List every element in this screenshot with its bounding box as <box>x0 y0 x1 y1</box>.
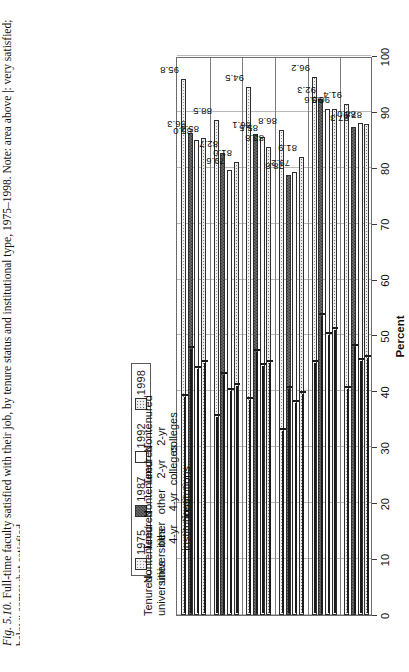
figure-number: Fig. 5.10. <box>1 601 13 646</box>
bar <box>332 109 337 615</box>
axis-title: Percent <box>394 57 406 616</box>
category-axis: Tenured universitiesNontenured universit… <box>132 57 172 616</box>
bar-value-label: 88.5 <box>193 106 212 117</box>
bar-value-label: 87.9 <box>343 110 362 121</box>
category-label: Tenured universities <box>142 583 167 616</box>
very-satisfied-rule <box>314 363 316 613</box>
axis-tick <box>372 391 377 392</box>
axis-tick-label: 20 <box>379 498 391 510</box>
bar-group: 88.582.779.681.0 <box>210 58 243 615</box>
axis-tick <box>372 447 377 448</box>
bar-value-label: 94.5 <box>225 73 244 84</box>
bar-group: 94.586.185.583.8 <box>242 58 275 615</box>
bar <box>299 157 304 615</box>
bar <box>246 87 251 615</box>
very-satisfied-rule <box>236 386 238 613</box>
bar <box>364 124 369 615</box>
bar <box>358 123 363 615</box>
axis-tick-label: 0 <box>379 613 391 619</box>
category-label: Nontenured universities <box>142 551 167 584</box>
bar <box>201 138 206 615</box>
axis-tick-label: 30 <box>379 442 391 454</box>
very-satisfied-rule <box>354 347 356 613</box>
axis-tick <box>372 559 377 560</box>
bar <box>325 109 330 615</box>
very-satisfied-tick <box>234 383 240 385</box>
very-satisfied-rule <box>282 431 284 613</box>
very-satisfied-rule <box>347 389 349 613</box>
bar <box>266 147 271 615</box>
axis-tick-label: 90 <box>379 107 391 119</box>
very-satisfied-tick <box>267 360 273 362</box>
bar <box>194 140 199 615</box>
bar-group: 91.487.388.087.9 <box>340 58 373 615</box>
axis-tick-label: 80 <box>379 163 391 175</box>
bar <box>253 134 258 615</box>
bar <box>318 99 323 615</box>
very-satisfied-rule <box>262 366 264 613</box>
bar <box>286 175 291 615</box>
very-satisfied-rule <box>249 400 251 613</box>
axis-tick <box>372 503 377 504</box>
bar-series-container: 95.886.385.085.488.582.779.681.094.586.1… <box>177 58 371 615</box>
very-satisfied-rule <box>295 403 297 613</box>
bar-value-label: 81.0 <box>213 148 232 159</box>
very-satisfied-rule <box>288 389 290 613</box>
bar <box>351 127 356 615</box>
bar <box>344 104 349 615</box>
axis-tick <box>372 280 377 281</box>
group-separator <box>275 58 276 615</box>
gridline <box>177 55 371 56</box>
plot-area: 95.886.385.085.488.582.779.681.094.586.1… <box>176 57 372 616</box>
bar-group: 96.292.390.690.5 <box>308 58 341 615</box>
bar <box>292 172 297 615</box>
axis-tick-label: 100 <box>379 48 391 66</box>
axis-tick <box>372 336 377 337</box>
very-satisfied-rule <box>204 363 206 613</box>
very-satisfied-rule <box>256 352 258 613</box>
very-satisfied-rule <box>230 391 232 613</box>
axis-tick-label: 60 <box>379 274 391 286</box>
axis-tick-label: 50 <box>379 330 391 342</box>
group-separator <box>242 58 243 615</box>
bar <box>220 153 225 615</box>
very-satisfied-rule <box>328 336 330 614</box>
bar <box>312 77 317 615</box>
bar <box>214 120 219 615</box>
category-label: Nontenured 2-yr colleges <box>142 420 180 453</box>
very-satisfied-rule <box>360 361 362 613</box>
very-satisfied-tick <box>365 355 371 357</box>
axis-tick <box>372 224 377 225</box>
axis-tick <box>372 56 377 57</box>
very-satisfied-tick <box>202 360 208 362</box>
very-satisfied-tick <box>332 327 338 329</box>
bar-value-label: 81.9 <box>278 143 297 154</box>
bar-value-label: 83.8 <box>245 133 264 144</box>
bar-value-label: 86.8 <box>258 116 277 127</box>
axis-tick-label: 10 <box>379 554 391 566</box>
category-label: Nontenured other 4-yr institutions <box>142 485 192 518</box>
bar-value-label: 96.2 <box>291 63 310 74</box>
axis-tick <box>372 615 377 616</box>
very-satisfied-tick <box>300 391 306 393</box>
bar-group: 86.878.879.281.9 <box>275 58 308 615</box>
very-satisfied-rule <box>334 330 336 613</box>
bar <box>260 137 265 615</box>
figure-caption: Fig. 5.10. Full-time faculty satisfied w… <box>0 0 14 646</box>
axis-tick <box>372 168 377 169</box>
figure-caption-line2: below: somewhat satisfied. <box>14 0 20 646</box>
bar <box>279 130 284 615</box>
axis-tick-label: 70 <box>379 219 391 231</box>
category-label: Tenured other 4-yr institutions <box>142 518 192 551</box>
axis-tick-label: 40 <box>379 386 391 398</box>
bar-value-label: 91.4 <box>323 90 342 101</box>
category-label: Tenured 2-yr colleges <box>142 453 180 486</box>
group-separator <box>308 58 309 615</box>
very-satisfied-rule <box>223 375 225 613</box>
axis-tick <box>372 112 377 113</box>
very-satisfied-rule <box>269 363 271 613</box>
bar-value-label: 79.2 <box>271 158 290 169</box>
very-satisfied-rule <box>321 316 323 613</box>
bar <box>234 162 239 615</box>
